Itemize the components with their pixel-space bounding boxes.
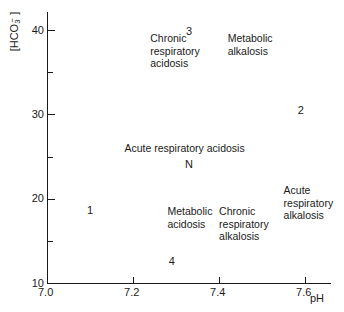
region-label-metabolic-alkalosis: Metabolic alkalosis <box>228 32 273 57</box>
region-label-chronic-respiratory-alkalosis: Chronic respiratory alkalosis <box>219 205 269 243</box>
region-label-metabolic-acidosis: Metabolic acidosis <box>167 205 212 230</box>
y-axis-tick-minor <box>48 241 53 242</box>
x-axis-tick <box>305 277 306 283</box>
x-axis-tick-label: 7.2 <box>124 287 139 298</box>
region-label-chronic-respiratory-acidosis: Chronic respiratory acidosis <box>150 32 200 70</box>
y-axis-tick-major <box>48 114 55 115</box>
x-axis-tick <box>219 277 220 283</box>
y-axis-tick-label: 40 <box>22 25 44 36</box>
data-point-1: 1 <box>83 205 97 216</box>
x-axis-line <box>47 283 331 284</box>
x-axis-tick <box>133 277 134 283</box>
acid-base-nomogram-figure: [HCO3−] pH 40302010 7.07.27.47.6 Chronic… <box>0 0 344 312</box>
y-axis-tick-major <box>48 30 55 31</box>
x-axis-title: pH <box>310 293 324 304</box>
y-axis-tick-label: 30 <box>22 109 44 120</box>
y-axis-tick-label: 20 <box>22 193 44 204</box>
region-label-acute-respiratory-alkalosis: Acute respiratory alkalosis <box>284 184 344 222</box>
y-axis-tick-major <box>48 199 55 200</box>
y-axis-tick-minor <box>48 72 53 73</box>
data-point-3: 3 <box>182 26 196 37</box>
x-axis-tick-label: 7.4 <box>210 287 225 298</box>
y-axis-tick-major <box>48 283 55 284</box>
data-point-n: N <box>182 159 196 170</box>
region-label-acute-respiratory-acidosis: Acute respiratory acidosis <box>124 142 244 155</box>
x-axis-tick-label: 7.6 <box>296 287 311 298</box>
data-point-4: 4 <box>165 256 179 267</box>
x-axis-tick-label: 7.0 <box>38 287 53 298</box>
y-axis-line <box>47 12 48 284</box>
y-axis-title-superscript: − <box>8 18 17 23</box>
y-axis-tick-minor <box>48 157 53 158</box>
y-axis-title: [HCO3−] <box>9 2 20 62</box>
data-point-2: 2 <box>294 105 308 116</box>
